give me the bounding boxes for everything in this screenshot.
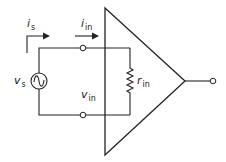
source-voltage-label: vs — [14, 74, 26, 89]
arrow-head-icon — [43, 33, 50, 40]
source-current-label: is — [27, 17, 35, 32]
circuit-diagram: is iin vs vin rin — [0, 0, 226, 162]
top-wire — [39, 48, 130, 73]
input-resistor — [127, 48, 133, 115]
output-terminal — [210, 78, 216, 84]
input-resistance-label: rin — [137, 74, 150, 89]
input-terminal-bottom — [80, 112, 86, 118]
input-current-arrow — [75, 33, 99, 40]
sine-wave-icon — [34, 76, 44, 86]
input-current-label: iin — [81, 17, 92, 32]
resistor-zigzag-icon — [127, 48, 133, 115]
input-terminal-top — [80, 45, 86, 51]
arrow-head-icon — [92, 33, 99, 40]
input-voltage-label: vin — [81, 88, 96, 103]
ac-voltage-source — [31, 73, 47, 89]
